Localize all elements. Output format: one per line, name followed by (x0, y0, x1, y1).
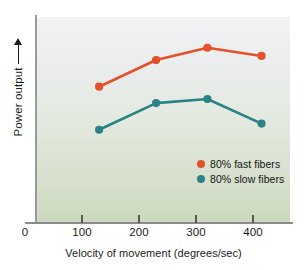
data-point-marker (203, 44, 211, 52)
y-axis-title-group: Power output (8, 7, 28, 167)
legend-swatch-fast-fibers (197, 160, 205, 168)
x-axis-tick-label: 200 (119, 226, 159, 239)
x-axis-tick-label: 100 (62, 226, 102, 239)
x-axis-tick (195, 215, 197, 223)
legend-label-fast-fibers: 80% fast fibers (210, 158, 280, 170)
series-line-fast-fibers (99, 48, 261, 87)
x-axis-title: Velocity of movement (degrees/sec) (0, 247, 307, 259)
data-point-marker (203, 95, 211, 103)
series-markers-fast-fibers (95, 44, 266, 91)
chart-legend: 80% fast fibers 80% slow fibers (197, 158, 284, 185)
series-line-slow-fibers (99, 99, 261, 130)
data-point-marker (257, 52, 265, 60)
x-axis-tick (252, 215, 254, 223)
chart-figure: 0100200300400 Velocity of movement (degr… (0, 0, 307, 270)
x-axis-tick-label: 400 (233, 226, 273, 239)
legend-label-slow-fibers: 80% slow fibers (210, 173, 284, 185)
x-axis-tick (81, 215, 83, 223)
legend-item-fast-fibers: 80% fast fibers (197, 158, 284, 170)
x-axis-tick-label: 300 (176, 226, 216, 239)
plot-canvas (36, 17, 290, 222)
data-point-marker (95, 83, 103, 91)
data-point-marker (257, 120, 265, 128)
arrow-up-icon (14, 38, 23, 64)
x-axis-tick-label: 0 (5, 226, 45, 239)
legend-swatch-slow-fibers (197, 175, 205, 183)
legend-item-slow-fibers: 80% slow fibers (197, 173, 284, 185)
data-point-marker (95, 126, 103, 134)
data-point-marker (152, 99, 160, 107)
x-axis-tick (138, 215, 140, 223)
y-axis-line (35, 15, 37, 223)
data-point-marker (152, 56, 160, 64)
plot-area (36, 17, 290, 222)
y-axis-title: Power output (12, 68, 24, 137)
